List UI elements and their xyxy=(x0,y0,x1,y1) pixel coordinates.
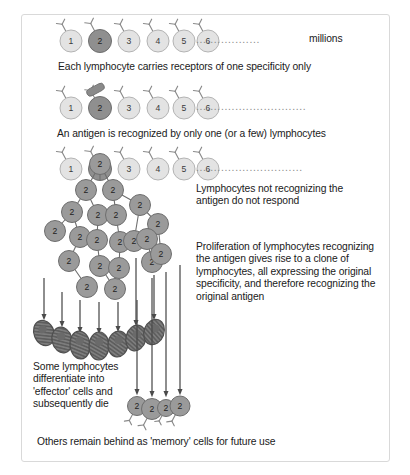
svg-text:2: 2 xyxy=(111,185,116,195)
svg-text:2: 2 xyxy=(132,236,137,246)
non-responding-row: 123456 xyxy=(56,146,219,180)
svg-text:2: 2 xyxy=(117,263,122,273)
lymphocyte-4: 4 xyxy=(143,19,169,52)
svg-text:2: 2 xyxy=(98,103,103,113)
lymphocyte-3: 3 xyxy=(114,86,140,119)
svg-text:2: 2 xyxy=(138,200,143,210)
clone-cell: 2 xyxy=(130,195,151,216)
clone-cell: 2 xyxy=(77,277,98,298)
row1-trailing-label: millions xyxy=(309,33,343,45)
svg-text:2: 2 xyxy=(178,401,183,411)
svg-text:4: 4 xyxy=(156,164,161,174)
lymphocyte-4: 4 xyxy=(143,147,169,180)
svg-text:2: 2 xyxy=(85,282,90,292)
lymphocyte-1: 1 xyxy=(56,86,82,119)
svg-text:2: 2 xyxy=(159,249,164,259)
lymphocyte-3: 3 xyxy=(114,147,140,180)
lymphocyte-5: 5 xyxy=(169,19,195,52)
svg-text:5: 5 xyxy=(182,103,187,113)
antigen-icon xyxy=(85,82,105,97)
effector-cell xyxy=(69,330,92,360)
svg-text:1: 1 xyxy=(69,103,74,113)
clone-cell: 2 xyxy=(105,279,126,300)
clone-cell: 2 xyxy=(103,180,124,201)
svg-text:1: 1 xyxy=(69,164,74,174)
svg-text:2: 2 xyxy=(156,219,161,229)
lymphocyte-1: 1 xyxy=(56,147,82,180)
clone-cell: 2 xyxy=(76,180,97,201)
svg-text:2: 2 xyxy=(96,210,101,220)
effector-cell xyxy=(89,332,110,361)
row3-caption: Lymphocytes not recognizing the antigen … xyxy=(196,183,343,208)
row2-caption: An antigen is recognized by only one (or… xyxy=(57,128,326,140)
svg-text:3: 3 xyxy=(127,164,132,174)
clone-cell: 2 xyxy=(90,154,111,175)
lymphocyte-4: 4 xyxy=(143,86,169,119)
antigen-recognition-row: 123456 xyxy=(56,85,219,119)
memory-annotation: Others remain behind as 'memory' cells f… xyxy=(37,436,275,448)
svg-text:2: 2 xyxy=(150,404,155,414)
proliferation-annotation: Proliferation of lymphocytes recognizing… xyxy=(196,241,375,303)
svg-text:2: 2 xyxy=(164,403,169,413)
lymphocyte-1: 1 xyxy=(56,19,82,52)
clone-cell: 2 xyxy=(87,230,108,251)
effector-annotation: Some lymphocytes differentiate into 'eff… xyxy=(33,361,118,411)
svg-text:2: 2 xyxy=(114,210,119,220)
row2-dots: ............................... xyxy=(196,101,306,112)
memory-cells: 2222 xyxy=(124,396,190,430)
row1-dots: .................. xyxy=(196,34,260,45)
svg-text:5: 5 xyxy=(182,164,187,174)
clone-cell: 2 xyxy=(106,205,127,226)
svg-text:2: 2 xyxy=(95,235,100,245)
svg-text:4: 4 xyxy=(156,103,161,113)
svg-text:1: 1 xyxy=(69,36,74,46)
clone-cell: 2 xyxy=(59,251,80,272)
svg-text:2: 2 xyxy=(53,226,58,236)
svg-text:2: 2 xyxy=(135,401,140,411)
svg-text:2: 2 xyxy=(70,207,75,217)
svg-text:2: 2 xyxy=(98,261,103,271)
clone-cell: 2 xyxy=(62,202,83,223)
svg-text:2: 2 xyxy=(98,159,103,169)
svg-text:3: 3 xyxy=(127,36,132,46)
lymphocyte-3: 3 xyxy=(114,19,140,52)
repertoire-row: 123456 xyxy=(56,18,219,52)
svg-text:2: 2 xyxy=(98,36,103,46)
svg-text:2: 2 xyxy=(113,284,118,294)
lymphocyte-2: 2 xyxy=(85,18,112,52)
svg-text:2: 2 xyxy=(84,185,89,195)
svg-text:2: 2 xyxy=(145,234,150,244)
clone-cell: 2 xyxy=(109,258,130,279)
clonal-selection-figure: 123456 123456 123456 2222222222222222222… xyxy=(0,0,410,475)
svg-text:2: 2 xyxy=(78,232,83,242)
row3-dots: .............................. xyxy=(196,162,303,173)
figure-stage: 123456 123456 123456 2222222222222222222… xyxy=(0,0,410,475)
clone-cell: 2 xyxy=(151,244,172,265)
row1-caption: Each lymphocyte carries receptors of one… xyxy=(58,61,311,73)
clone-cell: 2 xyxy=(45,221,66,242)
lymphocyte-5: 5 xyxy=(169,86,195,119)
svg-text:4: 4 xyxy=(156,36,161,46)
lymphocyte-5: 5 xyxy=(169,147,195,180)
svg-text:2: 2 xyxy=(118,237,123,247)
svg-text:2: 2 xyxy=(67,256,72,266)
svg-text:5: 5 xyxy=(182,36,187,46)
svg-text:3: 3 xyxy=(127,103,132,113)
clone-cell: 2 xyxy=(90,256,111,277)
